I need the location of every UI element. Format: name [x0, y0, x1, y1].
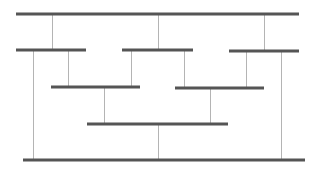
- bar-connector-diagram: [0, 0, 319, 169]
- bar-top: [16, 13, 299, 16]
- diagram-canvas: [0, 0, 319, 169]
- bar-row2-middle: [122, 49, 193, 52]
- bar-row3-left: [51, 86, 140, 89]
- bar-row2-left: [16, 49, 86, 52]
- bar-bottom: [23, 159, 305, 162]
- bar-row4: [87, 123, 228, 126]
- bar-row2-right: [229, 50, 299, 53]
- bar-row3-right: [175, 87, 264, 90]
- horizontal-bars: [16, 13, 305, 162]
